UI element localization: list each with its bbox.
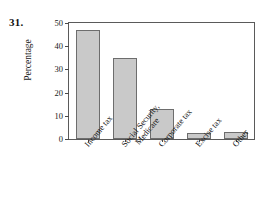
plot-area: 01020304050 — [68, 22, 255, 140]
y-tick-label: 40 — [55, 41, 64, 51]
y-tick-label: 20 — [55, 88, 64, 98]
y-tick-mark — [65, 69, 69, 70]
y-tick-mark — [65, 139, 69, 140]
y-tick-mark — [65, 23, 69, 24]
bar — [76, 30, 100, 139]
y-tick-mark — [65, 116, 69, 117]
y-tick-label: 50 — [55, 18, 64, 28]
problem-number: 31. — [9, 16, 24, 28]
plot-inner: 01020304050 — [69, 23, 254, 139]
figure-container: 31. Percentage 01020304050 Income taxSoc… — [0, 0, 263, 214]
y-tick-mark — [65, 46, 69, 47]
y-tick-mark — [65, 93, 69, 94]
y-tick-label: 0 — [59, 134, 63, 144]
y-axis-title: Percentage — [23, 27, 33, 93]
y-tick-label: 10 — [55, 111, 64, 121]
y-tick-label: 30 — [55, 64, 64, 74]
